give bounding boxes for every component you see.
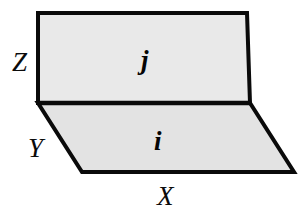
plane-label-j: j — [141, 47, 149, 74]
horizontal-plane-i-shape — [38, 103, 294, 172]
diagram-canvas — [0, 0, 305, 224]
axis-label-y: Y — [28, 135, 43, 162]
plane-label-i: i — [154, 128, 162, 155]
axis-label-z: Z — [12, 49, 27, 76]
axis-label-x: X — [157, 183, 174, 210]
plane-diagram-figure: Z Y X j i — [0, 0, 305, 224]
